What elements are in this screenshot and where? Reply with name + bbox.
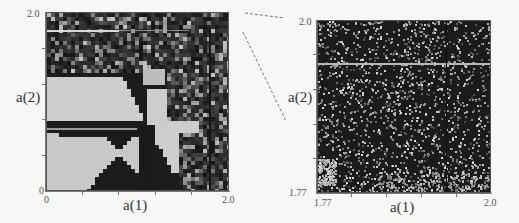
right-x-tick: [386, 194, 387, 197]
connector-line-bottom: [243, 32, 286, 121]
right-heatmap-image: [318, 21, 491, 193]
left-x-min-label: 0: [44, 195, 49, 205]
left-x-tick: [82, 192, 83, 195]
left-x-max-label: 2.0: [222, 195, 235, 205]
left-y-tick: [42, 48, 45, 49]
left-y-tick: [42, 84, 45, 85]
right-x-tick: [421, 194, 422, 197]
left-x-tick: [155, 192, 156, 195]
left-x-tick: [118, 192, 119, 195]
right-y-max-label: 2.0: [299, 17, 312, 27]
right-x-tick: [456, 194, 457, 197]
left-y-tick: [42, 155, 45, 156]
right-y-tick: [313, 54, 316, 55]
right-x-axis: [316, 193, 492, 194]
right-y-min-label: 1.77: [289, 188, 307, 198]
right-heatmap-plot: [317, 20, 491, 193]
right-x-tick: [351, 194, 352, 197]
left-x-axis: [45, 191, 230, 192]
connector-line-top: [245, 13, 284, 18]
left-heatmap-image: [47, 13, 229, 191]
right-y-axis-label: a(2): [288, 89, 312, 105]
right-x-max-label: 2.0: [484, 198, 497, 208]
left-y-tick: [42, 119, 45, 120]
right-y-tick: [313, 89, 316, 90]
left-x-tick: [191, 192, 192, 195]
left-y-axis-label: a(2): [16, 89, 40, 105]
right-y-tick: [313, 124, 316, 125]
left-x-axis-label: a(1): [123, 197, 147, 213]
left-y-max-label: 2.0: [27, 9, 40, 19]
right-x-axis-label: a(1): [390, 199, 414, 215]
right-x-min-label: 1.77: [314, 198, 332, 208]
right-y-tick: [313, 158, 316, 159]
left-heatmap-plot: [46, 12, 229, 191]
